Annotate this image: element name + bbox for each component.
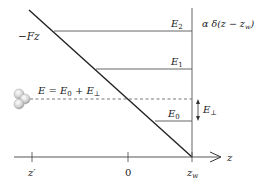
perp-energy-label: E⊥ (202, 104, 217, 117)
atom-cluster-icon (14, 89, 30, 109)
potential-line (29, 10, 192, 157)
level-e1-label: E1 (170, 56, 183, 69)
axis-label: z (226, 152, 233, 163)
perp-energy-arrow (196, 99, 200, 121)
level-e2-label: E2 (170, 18, 183, 31)
energy-sum-label: E = E0 + E⊥ (37, 85, 100, 98)
tick-label-zprime: z′ (27, 167, 36, 178)
energy-diagram: −Fz E2 E1 E0 α δ(z − zw) E = E0 + E⊥ E⊥ … (0, 0, 263, 187)
tick-label-zw: zw (186, 167, 198, 180)
tick-label-zero: 0 (125, 167, 131, 178)
potential-label: −Fz (18, 30, 40, 42)
level-e0-label: E0 (167, 108, 180, 121)
wall-potential-label: α δ(z − zw) (202, 18, 254, 31)
